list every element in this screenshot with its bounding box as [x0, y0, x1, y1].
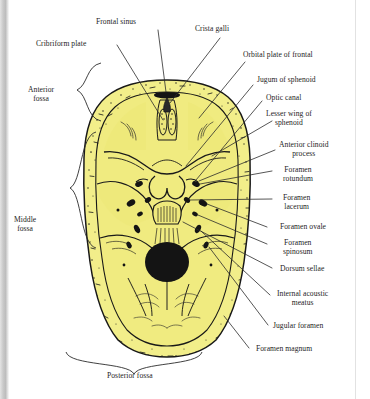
label-anterior-fossa: Anterior fossa	[28, 85, 54, 104]
label-jugular-foramen: Jugular foramen	[273, 321, 323, 330]
label-foramen-spinosum: Foramen spinosum	[283, 238, 313, 257]
label-lesser-wing-of-sphenoid: Lesser wing of sphenoid	[266, 109, 312, 128]
label-foramen-ovale: Foramen ovale	[280, 222, 326, 231]
label-posterior-fossa: Posterior fossa	[107, 371, 153, 380]
label-crista-galli: Crista galli	[195, 24, 229, 33]
label-orbital-plate-of-frontal: Orbital plate of frontal	[243, 50, 313, 59]
label-foramen-magnum: Foramen magnum	[256, 344, 312, 353]
cribriform-plate-region	[157, 98, 177, 140]
label-dorsum-sellae: Dorsum sellae	[280, 264, 324, 273]
label-optic-canal: Optic canal	[266, 93, 301, 102]
leader-foramen-magnum	[224, 316, 249, 348]
page-edge-rule	[355, 0, 356, 399]
label-frontal-sinus: Frontal sinus	[96, 17, 136, 26]
label-internal-acoustic-meatus: Internal acoustic meatus	[277, 289, 328, 308]
label-middle-fossa: Middle fossa	[14, 215, 36, 234]
label-anterior-clinoid-process: Anterior clinoid process	[279, 140, 329, 159]
foramen-magnum	[145, 242, 189, 282]
label-foramen-lacerum: Foramen lacerum	[283, 193, 310, 212]
skull-base-diagram	[0, 0, 370, 399]
label-jugum-of-sphenoid: Jugum of sphenoid	[257, 75, 316, 84]
label-foramen-rotundum: Foramen rotundum	[283, 165, 313, 184]
label-cribriform-plate: Cribriform plate	[36, 39, 86, 48]
